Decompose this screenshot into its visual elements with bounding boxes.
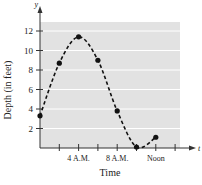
data-point bbox=[95, 58, 100, 63]
y-tick-label: 12 bbox=[24, 26, 33, 36]
data-point bbox=[57, 61, 62, 66]
y-tick-label: 4 bbox=[29, 104, 34, 114]
x-axis-arrow-icon bbox=[189, 146, 196, 151]
x-tick-label: Noon bbox=[147, 154, 165, 163]
x-tick-label: 8 A.M. bbox=[106, 154, 128, 163]
y-tick-label: 6 bbox=[29, 85, 34, 95]
x-axis-var: t bbox=[198, 144, 201, 153]
data-point bbox=[115, 108, 120, 113]
data-point bbox=[153, 135, 158, 140]
data-point bbox=[134, 144, 139, 149]
y-axis-arrow-icon bbox=[38, 6, 43, 13]
y-tick-label: 2 bbox=[29, 124, 34, 134]
data-point bbox=[37, 113, 42, 118]
y-axis-label: Depth (in feet) bbox=[2, 61, 14, 120]
x-axis-label: Time bbox=[100, 167, 121, 178]
x-tick-label: 4 A.M. bbox=[67, 154, 89, 163]
plot-area bbox=[40, 22, 180, 148]
y-axis-var: y bbox=[33, 0, 38, 9]
depth-chart: 24681012 4 A.M.8 A.M.Noon y t Time Depth… bbox=[0, 0, 202, 185]
y-tick-label: 8 bbox=[29, 65, 34, 75]
data-point bbox=[76, 34, 81, 39]
y-tick-label: 10 bbox=[24, 46, 34, 56]
